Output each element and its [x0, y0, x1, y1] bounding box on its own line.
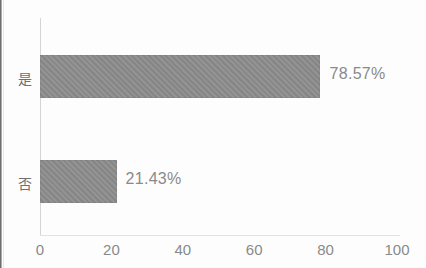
page-edge-artifact-secondary: [3, 0, 4, 268]
x-tick-label-2: 40: [174, 241, 191, 258]
category-label-1: 否: [14, 173, 36, 193]
bar-chart: 是 否 78.57% 21.43% 020406080100: [0, 0, 426, 268]
bar-value-label-0: 78.57%: [329, 65, 385, 83]
bar-1[interactable]: [40, 160, 117, 203]
category-label-0: 是: [14, 68, 36, 88]
x-tick-label-5: 100: [384, 241, 409, 258]
bar-0[interactable]: [40, 55, 320, 98]
x-tick-label-0: 0: [36, 241, 44, 258]
x-tick-label-3: 60: [246, 241, 263, 258]
x-tick-label-1: 20: [103, 241, 120, 258]
page-edge-artifact: [0, 0, 2, 268]
x-axis-line: [40, 235, 400, 236]
plot-area: 78.57% 21.43%: [40, 18, 397, 235]
bar-value-label-1: 21.43%: [126, 170, 182, 188]
x-tick-label-4: 80: [317, 241, 334, 258]
